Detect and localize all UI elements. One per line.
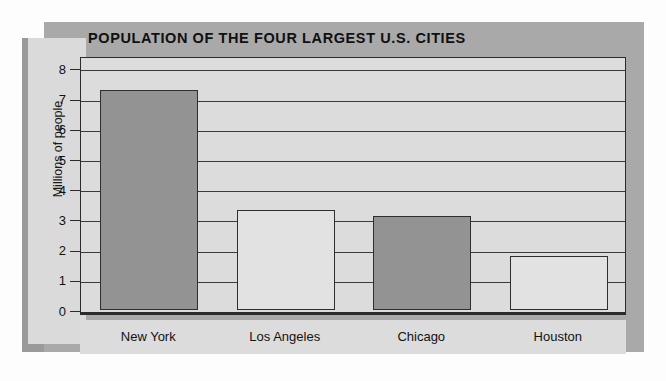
x-axis-category-strip: New YorkLos AngelesChicagoHouston <box>80 320 626 354</box>
bar-houston <box>510 256 608 310</box>
y-tick-label: 3 <box>40 214 66 227</box>
plot-area <box>81 58 625 313</box>
y-tick-mark <box>70 251 80 252</box>
x-tick-label: New York <box>80 320 217 354</box>
plot-area-frame <box>80 57 626 314</box>
y-tick-label: 1 <box>40 274 66 287</box>
x-axis-line <box>80 312 626 315</box>
chart-title: POPULATION OF THE FOUR LARGEST U.S. CITI… <box>88 30 466 46</box>
x-tick-label: Houston <box>490 320 627 354</box>
y-tick-mark <box>70 100 80 101</box>
bar-los-angeles <box>237 210 335 310</box>
y-axis-title: Millions of people <box>51 59 65 239</box>
y-tick-label: 6 <box>40 123 66 136</box>
y-tick-mark <box>70 281 80 282</box>
y-tick-label: 4 <box>40 184 66 197</box>
y-tick-mark <box>70 130 80 131</box>
bar-chicago <box>373 216 471 310</box>
x-tick-label: Chicago <box>353 320 490 354</box>
y-tick-mark <box>70 311 80 312</box>
bar-new-york <box>100 90 198 310</box>
y-tick-mark <box>70 190 80 191</box>
y-tick-label: 8 <box>40 63 66 76</box>
y-tick-label: 0 <box>40 305 66 318</box>
gridline <box>81 70 625 71</box>
y-tick-mark <box>70 220 80 221</box>
y-tick-mark <box>70 160 80 161</box>
y-tick-label: 2 <box>40 244 66 257</box>
y-tick-label: 7 <box>40 93 66 106</box>
y-tick-label: 5 <box>40 154 66 167</box>
x-tick-label: Los Angeles <box>217 320 354 354</box>
y-tick-mark <box>70 69 80 70</box>
